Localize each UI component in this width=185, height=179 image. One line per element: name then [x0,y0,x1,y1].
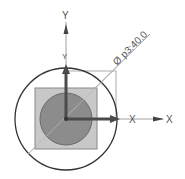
y-axis-label: Y [62,10,69,21]
y-direction-arrowhead-icon [62,64,70,74]
x-axis-label: X [166,114,173,125]
y-axis-arrow-icon [64,24,69,34]
x-axis-arrow-icon [153,117,164,122]
y-inner-label: Y [62,52,68,61]
sketch-canvas[interactable]: Y Y X X Ø p3:40.0 [0,0,185,179]
diagram-svg: Y Y X X Ø p3:40.0 [0,0,185,179]
x-inner-label: X [129,114,136,125]
x-direction-arrowhead-icon [110,115,120,123]
diameter-dimension-text[interactable]: Ø p3:40.0 [111,28,150,67]
origin-point[interactable] [64,117,68,121]
